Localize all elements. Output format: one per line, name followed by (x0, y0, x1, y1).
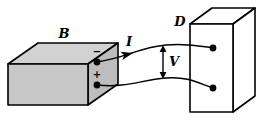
detector-box-side-face (233, 8, 255, 112)
voltage-label: V (169, 54, 181, 69)
diagram-canvas: B D I V − + (0, 0, 263, 122)
detector-bottom-terminal-dot (210, 85, 217, 92)
source-box-b (8, 43, 118, 105)
detector-box-d (190, 8, 255, 112)
current-label: I (125, 34, 133, 49)
source-box-label: B (58, 26, 70, 41)
positive-terminal-label: + (93, 69, 101, 80)
detector-box-front-face (190, 24, 233, 112)
detector-top-terminal-dot (210, 45, 217, 52)
source-box-front-face (8, 64, 88, 105)
detector-box-label: D (173, 14, 186, 29)
negative-terminal-label: − (93, 46, 101, 57)
source-positive-terminal-dot (94, 82, 101, 89)
current-arrowhead-icon (120, 49, 134, 60)
physics-circuit-diagram: B D I V − + (0, 0, 263, 122)
voltage-arrow-icon (160, 45, 167, 79)
source-negative-terminal-dot (94, 59, 101, 66)
